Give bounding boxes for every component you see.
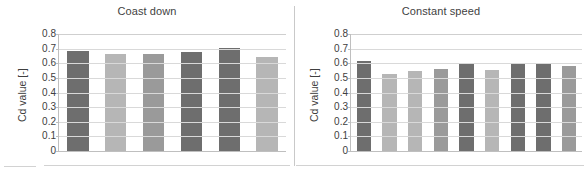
bar [485,70,499,151]
coast-down-y-tick-mark [56,136,59,137]
constant-speed-y-tick-label: 0.2 [334,117,348,127]
constant-speed-y-tick-mark [348,107,351,108]
coast-down-y-tick-label: 0.8 [42,29,56,39]
constant-speed-y-tick-label: 0.7 [334,44,348,54]
bar [408,71,422,151]
coast-down-y-tick-label: 0.1 [42,131,56,141]
coast-down-y-tick-mark [56,78,59,79]
bar [434,69,448,151]
constant-speed-y-tick-mark [348,136,351,137]
coast-down-y-tick-mark [56,49,59,50]
coast-down-y-tick-label: 0.4 [42,88,56,98]
chart-title-coast-down: Coast down [0,5,294,17]
gridline [59,49,286,50]
gridline [351,49,582,50]
gridline [351,34,582,35]
coast-down-y-tick-label: 0.7 [42,44,56,54]
constant-speed-y-tick-mark [348,122,351,123]
constant-speed-y-tick-label: 0.5 [334,73,348,83]
gridline [351,78,582,79]
gridline [59,122,286,123]
panel-bottom-rule-left [44,165,290,166]
gridline [351,63,582,64]
constant-speed-y-tick-mark [348,93,351,94]
bar [382,74,396,151]
panel-bottom-rule-left-stub [4,166,36,167]
coast-down-y-tick-mark [56,122,59,123]
chart-title-constant-speed: Constant speed [294,5,588,17]
constant-speed-y-tick-mark [348,34,351,35]
gridline [59,78,286,79]
gridline [59,93,286,94]
constant-speed-y-tick-mark [348,63,351,64]
coast-down-y-tick-mark [56,93,59,94]
panel-bottom-rule-right [296,165,584,166]
plot-area-constant-speed: 0.80.70.60.50.40.30.20.10 [350,34,582,152]
constant-speed-y-tick-mark [348,49,351,50]
gridline [59,136,286,137]
coast-down-y-tick-mark [56,151,59,152]
panel-divider [294,6,295,166]
constant-speed-y-tick-label: 0.3 [334,102,348,112]
coast-down-y-tick-mark [56,34,59,35]
coast-down-y-tick-mark [56,63,59,64]
coast-down-y-tick-mark [56,107,59,108]
plot-area-coast-down: 0.80.70.60.50.40.30.20.10 [58,34,286,152]
gridline [59,34,286,35]
chart-panel-coast-down: Coast down Cd value [-] 0.80.70.60.50.40… [0,0,294,176]
coast-down-y-tick-label: 0.2 [42,117,56,127]
y-axis-label-coast-down: Cd value [-] [16,68,28,122]
gridline [59,107,286,108]
bar [357,61,371,151]
coast-down-y-tick-label: 0.6 [42,58,56,68]
coast-down-y-tick-label: 0.5 [42,73,56,83]
gridline [351,122,582,123]
constant-speed-y-tick-mark [348,151,351,152]
y-axis-label-constant-speed: Cd value [-] [308,68,320,122]
coast-down-y-tick-label: 0.3 [42,102,56,112]
chart-figure: Coast down Cd value [-] 0.80.70.60.50.40… [0,0,588,176]
constant-speed-y-tick-label: 0.1 [334,131,348,141]
chart-panel-constant-speed: Constant speed Cd value [-] 0.80.70.60.5… [294,0,588,176]
constant-speed-y-tick-label: 0.6 [334,58,348,68]
bar [562,66,576,151]
gridline [351,93,582,94]
gridline [351,107,582,108]
gridline [59,63,286,64]
constant-speed-y-tick-mark [348,78,351,79]
constant-speed-y-tick-label: 0.8 [334,29,348,39]
constant-speed-y-tick-label: 0.4 [334,88,348,98]
gridline [351,136,582,137]
